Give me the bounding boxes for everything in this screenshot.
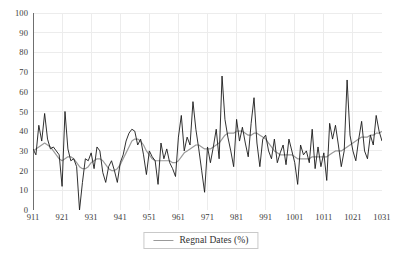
x-tick-label: 1001 <box>286 212 303 222</box>
line-chart: 0102030405060708090100 91192193194195196… <box>0 0 402 263</box>
x-tick-label: 1021 <box>344 212 361 222</box>
y-tick-label: 90 <box>19 28 28 38</box>
series-lines <box>33 13 382 210</box>
y-tick-label: 50 <box>19 107 28 117</box>
x-tick-label: 1011 <box>315 212 332 222</box>
y-tick-label: 20 <box>19 166 28 176</box>
series-line-annual <box>33 76 382 210</box>
y-tick-label: 30 <box>19 146 28 156</box>
x-tick-label: 981 <box>230 212 243 222</box>
x-tick-label: 991 <box>259 212 272 222</box>
x-tick-label: 941 <box>114 212 127 222</box>
x-tick-label: 1031 <box>373 212 390 222</box>
x-tick-label: 931 <box>85 212 98 222</box>
y-tick-label: 70 <box>19 67 28 77</box>
y-tick-label: 60 <box>19 87 28 97</box>
y-tick-label: 80 <box>19 47 28 57</box>
plot-area <box>33 13 382 210</box>
y-axis: 0102030405060708090100 <box>0 0 33 210</box>
x-tick-label: 911 <box>27 212 40 222</box>
legend-item-label: Regnal Dates (%) <box>179 235 248 245</box>
x-tick-label: 971 <box>201 212 214 222</box>
y-tick-label: 100 <box>15 8 28 18</box>
x-tick-label: 921 <box>56 212 69 222</box>
chart-legend: Regnal Dates (%) <box>143 232 258 249</box>
legend-line-swatch <box>153 240 173 241</box>
y-tick-label: 40 <box>19 126 28 136</box>
x-tick-label: 961 <box>172 212 185 222</box>
y-tick-label: 10 <box>19 185 28 195</box>
x-tick-label: 951 <box>143 212 156 222</box>
x-axis: 9119219319419519619719819911001101110211… <box>33 212 382 228</box>
